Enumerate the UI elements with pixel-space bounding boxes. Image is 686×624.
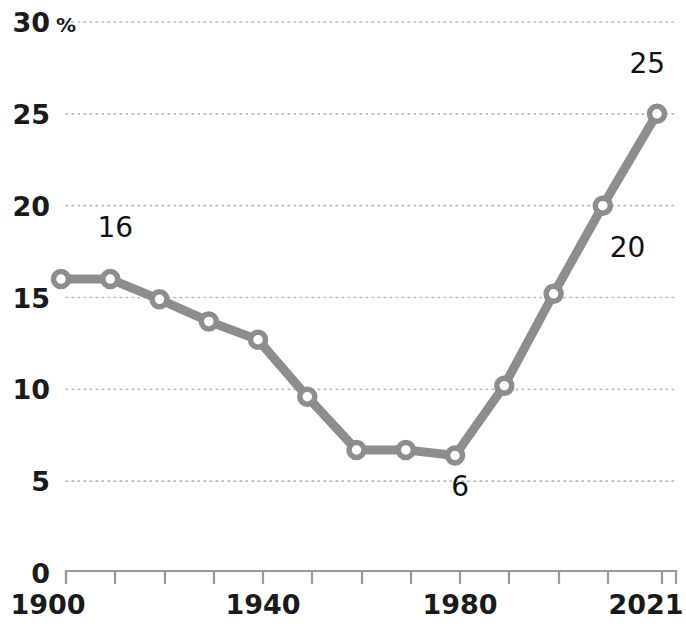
- data-point-1920: [152, 292, 167, 307]
- y-axis-label-0: 0: [31, 558, 50, 589]
- annotation-6: 6: [451, 470, 469, 503]
- x-axis-label-2021: 2021: [608, 589, 683, 620]
- y-axis-label-20: 20: [12, 191, 50, 222]
- annotation-20: 20: [610, 231, 646, 264]
- data-point-1940: [251, 332, 266, 347]
- data-point-annotations: 1662025: [97, 47, 665, 502]
- data-point-1970: [398, 442, 413, 457]
- y-axis-unit-label: %: [56, 13, 76, 37]
- annotation-16: 16: [97, 211, 133, 244]
- line-chart: 051015202530% 1900194019802021 1662025: [0, 0, 686, 624]
- data-point-2021: [650, 106, 665, 121]
- annotation-25: 25: [629, 47, 665, 80]
- data-point-2010: [595, 198, 610, 213]
- data-point-1910: [103, 272, 118, 287]
- series-line-share: [61, 114, 657, 456]
- data-point-1960: [349, 442, 364, 457]
- y-axis-label-30: 30: [12, 7, 50, 38]
- data-series-group: [61, 114, 657, 456]
- data-point-1950: [300, 389, 315, 404]
- data-point-markers: [54, 106, 665, 463]
- gridlines-group: [66, 22, 676, 481]
- data-point-1900: [54, 272, 69, 287]
- x-axis-label-1940: 1940: [225, 589, 300, 620]
- x-axis-tick-labels: 1900194019802021: [10, 589, 683, 620]
- y-axis-label-10: 10: [12, 374, 50, 405]
- y-axis-label-5: 5: [31, 466, 50, 497]
- data-point-1990: [497, 378, 512, 393]
- data-point-1980: [448, 448, 463, 463]
- y-axis-label-15: 15: [12, 283, 50, 314]
- data-point-2000: [546, 286, 561, 301]
- chart-canvas: 051015202530% 1900194019802021 1662025: [0, 0, 686, 624]
- y-axis-label-25: 25: [12, 99, 50, 130]
- x-axis-label-1900: 1900: [10, 589, 85, 620]
- x-axis-label-1980: 1980: [422, 589, 497, 620]
- x-axis-group: [66, 571, 676, 584]
- data-point-1930: [201, 314, 216, 329]
